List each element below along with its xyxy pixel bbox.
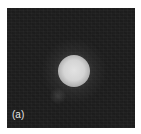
image-panel: (a) (7, 8, 135, 128)
faint-smudge (49, 88, 67, 104)
bright-spot (58, 55, 90, 87)
panel-label: (a) (12, 109, 24, 121)
